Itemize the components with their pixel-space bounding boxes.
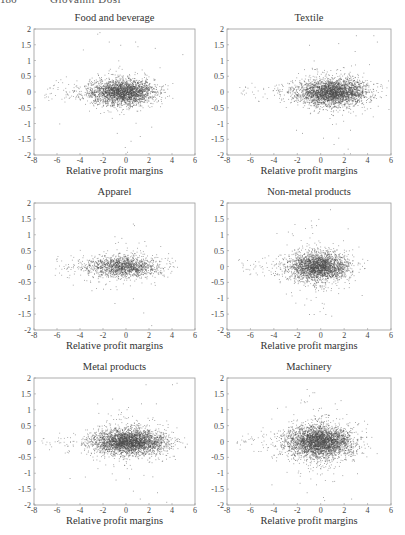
- y-tick-label: 2: [220, 25, 224, 34]
- panel-title: Apparel: [34, 186, 195, 197]
- x-tick-label: 2: [342, 156, 346, 165]
- scatter-plot-area: 21.510.50-0.5-1-1.5-2-8-6-4-20246: [9, 200, 210, 341]
- y-tick-label: 0.5: [21, 422, 31, 431]
- panel-title: Metal products: [34, 361, 195, 372]
- y-tick-label: -0.5: [18, 453, 31, 462]
- scatter-plot-area: 21.510.50-0.5-1-1.5-2-8-6-4-20246: [9, 26, 210, 166]
- x-tick-label: -8: [224, 506, 231, 515]
- y-tick-label: 0: [220, 88, 224, 97]
- y-tick-label: 2: [27, 199, 31, 208]
- y-tick-label: 0.5: [214, 72, 224, 81]
- page-number: 186: [0, 0, 17, 5]
- y-tick-label: 1: [220, 406, 224, 415]
- x-tick-label: 0: [124, 156, 128, 165]
- x-tick-label: 2: [147, 506, 151, 515]
- y-tick-label: 2: [220, 374, 224, 383]
- x-tick-label: -6: [247, 331, 254, 340]
- x-tick-label: 2: [342, 331, 346, 340]
- x-tick-label: 2: [342, 506, 346, 515]
- y-tick-label: -1.5: [211, 310, 224, 319]
- x-tick-label: 2: [147, 331, 151, 340]
- x-axis-label: Relative profit margins: [34, 515, 195, 526]
- x-tick-label: 4: [366, 506, 370, 515]
- x-tick-label: -4: [271, 506, 278, 515]
- x-tick-label: 4: [170, 506, 174, 515]
- x-tick-label: 6: [193, 156, 197, 165]
- x-tick-label: 4: [366, 331, 370, 340]
- panel-title: Textile: [227, 12, 391, 23]
- x-axis-label: Relative profit margins: [227, 165, 391, 176]
- y-tick-label: -0.5: [18, 104, 31, 113]
- x-axis-label: Relative profit margins: [34, 165, 195, 176]
- scatter-plot-area: 21.510.50-0.5-1-1.5-2-8-6-4-20246: [202, 26, 405, 166]
- y-tick-label: 1.5: [21, 215, 31, 224]
- y-tick-label: 2: [220, 199, 224, 208]
- data-points: [238, 209, 368, 316]
- x-tick-label: -8: [224, 156, 231, 165]
- y-tick-label: 1.5: [214, 390, 224, 399]
- x-tick-label: -6: [54, 331, 61, 340]
- data-points: [42, 383, 188, 503]
- y-tick-label: 0: [27, 88, 31, 97]
- x-tick-label: 4: [366, 156, 370, 165]
- y-tick-label: 2: [27, 374, 31, 383]
- scatter-plot-area: 21.510.50-0.5-1-1.5-2-8-6-4-20246: [202, 375, 405, 516]
- y-tick-label: 0.5: [214, 422, 224, 431]
- scatter-plot-area: 21.510.50-0.5-1-1.5-2-8-6-4-20246: [202, 200, 405, 341]
- panel-title: Food and beverage: [34, 12, 195, 23]
- y-tick-label: 0.5: [214, 247, 224, 256]
- y-tick-label: 1.5: [214, 41, 224, 50]
- panel-title: Machinery: [227, 361, 391, 372]
- y-tick-label: -0.5: [211, 453, 224, 462]
- panel-title: Non-metal products: [227, 186, 391, 197]
- y-tick-label: -1.5: [211, 135, 224, 144]
- x-axis-label: Relative profit margins: [227, 340, 391, 351]
- y-tick-label: -1: [217, 120, 224, 129]
- x-tick-label: -8: [31, 506, 38, 515]
- y-tick-label: 0: [27, 263, 31, 272]
- x-tick-label: -4: [77, 506, 84, 515]
- y-tick-label: 1: [27, 406, 31, 415]
- y-tick-label: -0.5: [211, 278, 224, 287]
- x-tick-label: 2: [147, 156, 151, 165]
- data-points: [55, 224, 178, 327]
- y-tick-label: 1: [27, 231, 31, 240]
- data-points: [239, 35, 389, 154]
- x-tick-label: -6: [247, 506, 254, 515]
- y-tick-label: -1.5: [18, 310, 31, 319]
- x-axis-label: Relative profit margins: [34, 340, 195, 351]
- y-tick-label: 0: [220, 263, 224, 272]
- y-tick-label: -1: [217, 294, 224, 303]
- y-tick-label: -1: [24, 120, 31, 129]
- x-tick-label: 6: [193, 506, 197, 515]
- x-tick-label: 6: [389, 331, 393, 340]
- x-tick-label: -6: [54, 156, 61, 165]
- x-tick-label: -4: [77, 331, 84, 340]
- y-tick-label: -1: [217, 469, 224, 478]
- x-tick-label: -6: [54, 506, 61, 515]
- x-tick-label: -8: [224, 331, 231, 340]
- y-tick-label: 1.5: [214, 215, 224, 224]
- x-axis-label: Relative profit margins: [227, 515, 391, 526]
- y-tick-label: 1: [27, 57, 31, 66]
- y-tick-label: 1.5: [21, 41, 31, 50]
- data-points: [237, 389, 378, 501]
- running-head-author: Giovanni Dosi: [50, 0, 121, 5]
- x-tick-label: 6: [193, 331, 197, 340]
- y-tick-label: -1.5: [18, 485, 31, 494]
- x-tick-label: -6: [247, 156, 254, 165]
- x-tick-label: 6: [389, 156, 393, 165]
- x-tick-label: 4: [170, 156, 174, 165]
- x-tick-label: -8: [31, 156, 38, 165]
- y-tick-label: 1: [220, 231, 224, 240]
- x-tick-label: -2: [294, 506, 301, 515]
- x-tick-label: 0: [319, 506, 323, 515]
- x-tick-label: -4: [271, 331, 278, 340]
- y-tick-label: -1: [24, 469, 31, 478]
- x-tick-label: 0: [319, 156, 323, 165]
- x-tick-label: -2: [294, 331, 301, 340]
- x-tick-label: 4: [170, 331, 174, 340]
- x-tick-label: 0: [319, 331, 323, 340]
- x-tick-label: -2: [294, 156, 301, 165]
- x-tick-label: -2: [100, 506, 107, 515]
